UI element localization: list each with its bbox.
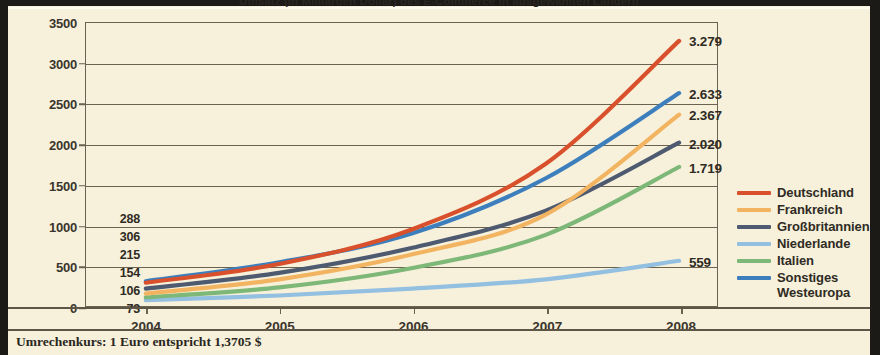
series-end-value: 2.367: [689, 108, 722, 123]
series-end-value: 3.279: [689, 33, 722, 48]
legend-color-swatch: [737, 276, 771, 280]
legend-color-swatch: [737, 191, 771, 195]
y-tick-label: 1500: [49, 178, 77, 193]
y-tick-mark: [79, 267, 86, 269]
series-start-value: 306: [86, 230, 140, 244]
series-end-value: 2.633: [689, 86, 722, 101]
y-tick-mark: [79, 185, 86, 187]
y-tick-label: 500: [56, 260, 77, 275]
series-lines: [86, 23, 717, 306]
x-tick-label: 2007: [532, 319, 562, 334]
legend-item[interactable]: Deutschland: [737, 185, 872, 200]
footnote-separator: [8, 329, 870, 331]
y-tick-mark: [79, 226, 86, 228]
series-end-value: 2.020: [689, 136, 722, 151]
footnote: Umrechenkurs: 1 Euro entspricht 1,3705 $: [16, 334, 262, 350]
axis-bottom-rule: [8, 307, 870, 309]
series-start-value: 106: [86, 284, 140, 298]
y-tick-label: 2000: [49, 138, 77, 153]
y-tick-label: 1000: [49, 219, 77, 234]
legend-label: Niederlande: [777, 236, 850, 251]
x-tick-label: 2008: [666, 319, 696, 334]
x-tick-label: 2005: [265, 319, 295, 334]
series-end-value: 1.719: [689, 161, 722, 176]
series-start-value: 154: [86, 266, 140, 280]
y-tick-label: 2500: [49, 97, 77, 112]
x-tick-label: 2006: [398, 319, 428, 334]
series-start-value: 288: [86, 212, 140, 226]
legend-item[interactable]: Italien: [737, 253, 872, 268]
legend-label: Frankreich: [777, 202, 842, 217]
y-tick-mark: [79, 63, 86, 65]
y-tick-label: 3000: [49, 56, 77, 71]
series-start-value: 215: [86, 248, 140, 262]
legend-item[interactable]: Frankreich: [737, 202, 872, 217]
legend-item[interactable]: Niederlande: [737, 236, 872, 251]
plot-area: 0500100015002000250030003500 20042005200…: [85, 22, 718, 307]
legend-color-swatch: [737, 208, 771, 212]
series-start-value: 73: [86, 302, 140, 316]
y-tick-label: 3500: [49, 16, 77, 31]
legend-color-swatch: [737, 259, 771, 263]
legend-item[interactable]: Sonstiges Westeuropa: [737, 270, 872, 300]
y-tick-mark: [79, 104, 86, 106]
legend-color-swatch: [737, 225, 771, 229]
frame-border-left: [0, 0, 8, 355]
series-end-value: 559: [689, 255, 711, 270]
legend-label: Italien: [777, 253, 814, 268]
legend: DeutschlandFrankreichGroßbritannienNiede…: [737, 185, 872, 302]
legend-label: Großbritannien: [777, 219, 870, 234]
legend-color-swatch: [737, 242, 771, 246]
x-tick-label: 2004: [131, 319, 161, 334]
legend-label: Deutschland: [777, 185, 854, 200]
chart-page: Umsatz (in Milliarden Dollar) des E-Comm…: [0, 0, 880, 355]
chart-title: Umsatz (in Milliarden Dollar) des E-Comm…: [8, 0, 870, 7]
title-separator: [8, 7, 870, 9]
legend-item[interactable]: Großbritannien: [737, 219, 872, 234]
y-tick-mark: [79, 144, 86, 146]
legend-label: Sonstiges Westeuropa: [777, 270, 850, 300]
